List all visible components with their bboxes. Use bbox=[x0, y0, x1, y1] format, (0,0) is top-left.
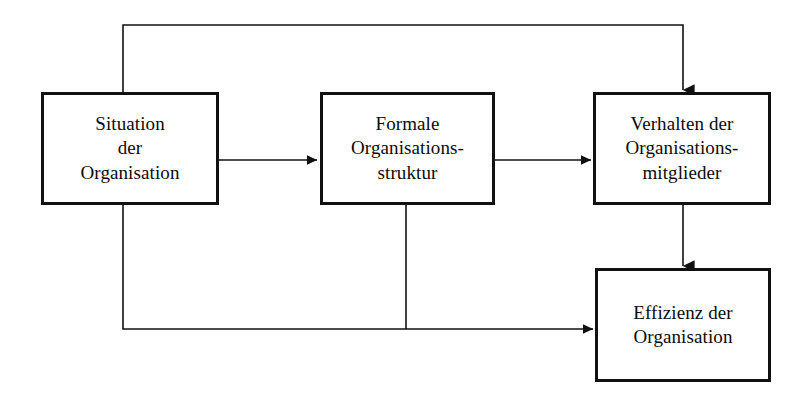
edge-situation-to-verhalten bbox=[123, 25, 683, 92]
node-label: Formale Organisations- struktur bbox=[347, 112, 468, 184]
node-formale-organisationsstruktur[interactable]: Formale Organisations- struktur bbox=[320, 92, 495, 205]
node-situation-der-organisation[interactable]: Situation der Organisation bbox=[41, 92, 219, 205]
edge-situation-to-effizienz bbox=[123, 205, 593, 329]
node-label: Situation der Organisation bbox=[76, 112, 183, 184]
node-effizienz-der-organisation[interactable]: Effizienz der Organisation bbox=[595, 268, 771, 382]
node-label: Effizienz der Organisation bbox=[629, 301, 737, 349]
node-label: Verhalten der Organisations- mitglieder bbox=[622, 112, 743, 184]
diagram-canvas: Situation der Organisation Formale Organ… bbox=[0, 0, 809, 412]
node-verhalten-der-organisationsmitglieder[interactable]: Verhalten der Organisations- mitglieder bbox=[593, 92, 771, 205]
